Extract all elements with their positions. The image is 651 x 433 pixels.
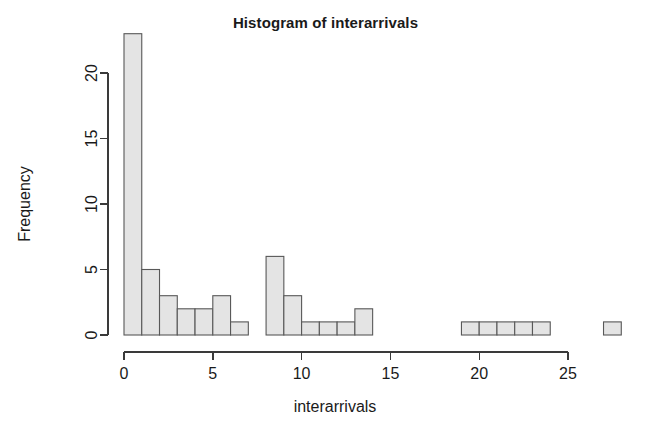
y-tick-label: 5	[83, 265, 100, 274]
x-axis-title: interarrivals	[294, 398, 377, 415]
x-axis: 0510152025	[120, 352, 577, 382]
histogram-bar	[142, 270, 160, 336]
x-tick-label: 15	[382, 365, 400, 382]
histogram-bar	[195, 309, 213, 335]
y-tick-label: 20	[83, 64, 100, 82]
histogram-figure: Histogram of interarrivals 0510152025 05…	[0, 0, 651, 433]
plot-area: 0510152025 05101520 interarrivals Freque…	[0, 0, 651, 433]
histogram-bar	[337, 322, 355, 335]
histogram-bar	[302, 322, 320, 335]
histogram-bar	[266, 256, 284, 335]
histogram-bar	[213, 296, 231, 335]
x-tick-label: 20	[470, 365, 488, 382]
histogram-bar	[515, 322, 533, 335]
histogram-bar	[532, 322, 550, 335]
histogram-bar	[160, 296, 178, 335]
histogram-svg: 0510152025 05101520 interarrivals Freque…	[0, 0, 651, 433]
histogram-bar	[124, 34, 142, 335]
histogram-bar	[231, 322, 249, 335]
histogram-bar	[461, 322, 479, 335]
histogram-bar	[177, 309, 195, 335]
histogram-bar	[604, 322, 622, 335]
histogram-bar	[319, 322, 337, 335]
histogram-bar	[284, 296, 302, 335]
x-tick-label: 10	[293, 365, 311, 382]
bars-group	[124, 34, 621, 335]
x-tick-label: 25	[559, 365, 577, 382]
histogram-bar	[355, 309, 373, 335]
y-axis-title: Frequency	[16, 166, 33, 242]
y-tick-label: 10	[83, 195, 100, 213]
y-tick-label: 15	[83, 130, 100, 148]
x-tick-label: 0	[120, 365, 129, 382]
y-tick-label: 0	[83, 330, 100, 339]
histogram-bar	[479, 322, 497, 335]
x-tick-label: 5	[208, 365, 217, 382]
y-axis: 05101520	[83, 64, 108, 339]
histogram-bar	[497, 322, 515, 335]
